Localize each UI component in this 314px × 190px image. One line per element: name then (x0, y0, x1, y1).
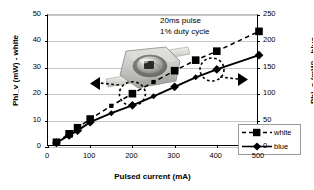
series-line-blue (56, 55, 259, 143)
y-axis-right-tick-label: 100 (263, 89, 287, 97)
pulse-note-line-2: 1% duty cycle (160, 26, 209, 37)
callout-line-left (100, 83, 119, 85)
y-axis-right-tick-label: 250 (263, 10, 287, 18)
y-axis-left-tick-label: 20 (19, 89, 41, 97)
y-axis-right-tick-label: 0 (263, 142, 287, 150)
series-white (53, 28, 263, 146)
legend-item-white: white (241, 126, 292, 139)
y-axis-right-tick-label: 50 (263, 116, 287, 124)
y-axis-right-title: Phi_e (mW) - blue (309, 16, 314, 126)
plot-area: white blue (47, 14, 258, 146)
data-point-blue (255, 51, 264, 60)
arrow-left-icon (90, 77, 100, 90)
data-point-white (151, 80, 155, 84)
pulse-note-line-1: 20ms pulse (160, 15, 209, 26)
y-axis-left-tick-label: 0 (19, 142, 41, 150)
x-axis-title: Pulsed current (mA) (47, 172, 258, 181)
legend: white blue (238, 124, 301, 155)
y-axis-left-tick-label: 50 (19, 10, 41, 18)
data-point-blue (193, 74, 199, 80)
data-point-white (109, 104, 113, 108)
x-axis-tick-label: 400 (203, 152, 229, 160)
data-point-white (171, 67, 179, 75)
y-axis-left-tick-label: 40 (19, 36, 41, 44)
data-point-blue (212, 65, 221, 74)
x-axis-tick-label: 100 (76, 152, 102, 160)
x-axis-tick-label: 300 (161, 152, 187, 160)
x-axis-tick-label: 200 (118, 152, 144, 160)
y-axis-right-tick-label: 200 (263, 36, 287, 44)
y-axis-left-tick (45, 147, 48, 148)
y-axis-right-tick-label: 150 (263, 63, 287, 71)
callout-line-right (220, 77, 238, 79)
data-point-blue (108, 110, 114, 116)
x-axis-tick-label: 500 (245, 152, 271, 160)
legend-swatch-white (241, 127, 273, 138)
series-line-white (56, 31, 259, 142)
x-axis-tick-label: 0 (34, 152, 60, 160)
chart-figure: Phi_v (mW) - white Phi_e (mW) - blue Pul… (0, 0, 313, 190)
data-series-layer (48, 15, 259, 147)
series-blue (52, 51, 263, 147)
gridline (48, 147, 257, 148)
y-axis-left-tick-label: 10 (19, 116, 41, 124)
data-point-blue (151, 93, 157, 99)
y-axis-left-tick-label: 30 (19, 63, 41, 71)
data-point-white (255, 28, 263, 36)
pulse-note-annotation: 20ms pulse 1% duty cycle (160, 15, 209, 37)
data-point-white (192, 56, 200, 64)
data-point-white (129, 90, 137, 98)
data-point-blue (170, 82, 179, 91)
arrow-right-icon (238, 73, 248, 86)
legend-label-white: white (274, 128, 292, 137)
data-point-white (213, 47, 221, 55)
